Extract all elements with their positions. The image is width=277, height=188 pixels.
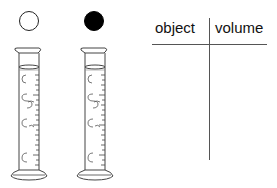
diagram: object volume xyxy=(0,0,277,188)
graduated-cylinder-2 xyxy=(77,48,113,180)
table-header-object: object xyxy=(155,19,195,37)
table-header-volume: volume xyxy=(215,19,263,37)
graduated-cylinder-1 xyxy=(11,48,47,180)
black-ball-icon xyxy=(85,12,104,31)
white-ball-icon xyxy=(20,12,39,31)
table-column-divider xyxy=(209,18,210,160)
